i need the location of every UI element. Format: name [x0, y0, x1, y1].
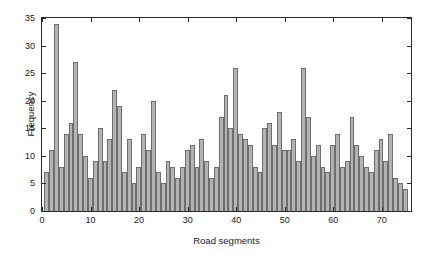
y-tick-mark	[42, 128, 46, 129]
bar-series	[42, 18, 411, 211]
y-tick-mark	[42, 73, 46, 74]
x-tick-mark-top	[188, 18, 189, 22]
y-tick-mark-right	[407, 18, 411, 19]
x-tick-mark	[236, 207, 237, 211]
y-tick-label: 5	[30, 179, 35, 188]
x-tick-mark	[91, 207, 92, 211]
plot-axes: 05101520253035 010203040506070	[41, 17, 412, 212]
x-tick-mark	[42, 207, 43, 211]
x-tick-mark-top	[91, 18, 92, 22]
plot-area	[42, 18, 411, 211]
x-tick-mark	[139, 207, 140, 211]
x-tick-mark	[333, 207, 334, 211]
x-tick-label: 10	[86, 216, 96, 225]
x-tick-label: 0	[39, 216, 44, 225]
y-tick-label: 30	[25, 41, 35, 50]
x-tick-label: 30	[183, 216, 193, 225]
y-tick-mark	[42, 211, 46, 212]
x-tick-label: 20	[134, 216, 144, 225]
x-tick-mark-top	[139, 18, 140, 22]
y-axis-title: Frequency	[26, 92, 36, 137]
x-tick-mark-top	[285, 18, 286, 22]
y-tick-mark-right	[407, 156, 411, 157]
x-tick-label: 50	[280, 216, 290, 225]
x-tick-mark	[188, 207, 189, 211]
x-tick-mark-top	[236, 18, 237, 22]
y-tick-mark	[42, 183, 46, 184]
y-tick-label: 25	[25, 69, 35, 78]
y-tick-label: 0	[30, 207, 35, 216]
y-tick-label: 10	[25, 151, 35, 160]
x-tick-mark-top	[333, 18, 334, 22]
y-tick-label: 35	[25, 14, 35, 23]
y-tick-mark-right	[407, 101, 411, 102]
x-tick-mark-top	[382, 18, 383, 22]
y-tick-mark	[42, 101, 46, 102]
bar-chart-figure: 05101520253035 010203040506070 Road segm…	[0, 0, 424, 259]
x-axis-title: Road segments	[41, 236, 412, 246]
x-tick-mark	[285, 207, 286, 211]
y-tick-mark	[42, 156, 46, 157]
y-tick-mark	[42, 46, 46, 47]
y-tick-mark-right	[407, 128, 411, 129]
x-tick-label: 60	[328, 216, 338, 225]
x-tick-label: 70	[377, 216, 387, 225]
y-tick-mark-right	[407, 183, 411, 184]
bar	[403, 189, 408, 211]
x-tick-label: 40	[231, 216, 241, 225]
x-tick-mark	[382, 207, 383, 211]
x-tick-mark-top	[42, 18, 43, 22]
y-tick-mark-right	[407, 73, 411, 74]
y-tick-mark-right	[407, 211, 411, 212]
y-tick-mark-right	[407, 46, 411, 47]
